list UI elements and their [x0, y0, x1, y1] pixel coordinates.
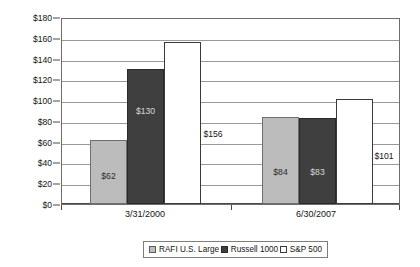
- legend-item-russell[interactable]: Russell 1000: [221, 245, 278, 254]
- legend-item-sp500[interactable]: S&P 500: [280, 245, 322, 254]
- y-tick-mark: [53, 142, 60, 143]
- y-tick-mark: [53, 59, 60, 60]
- y-tick-label: $120: [33, 75, 52, 85]
- legend-label-sp500: S&P 500: [290, 245, 322, 254]
- y-tick-label: $160: [33, 34, 52, 44]
- y-tick-label: $0: [42, 200, 52, 210]
- gridline: [62, 61, 399, 62]
- y-axis-labels: $180 $160 $140 $120 $100 $80 $60 $40 $20…: [0, 0, 61, 267]
- y-tick-label: $180: [33, 13, 52, 23]
- bar-value-label-russell-2007: $83: [310, 167, 324, 177]
- x-axis-ticks: [61, 205, 400, 215]
- plot-area: $62 $130 $156 $84 $83 $101: [61, 18, 400, 205]
- legend-item-rafi[interactable]: RAFI U.S. Large: [149, 245, 219, 254]
- legend-swatch-icon-russell: [221, 246, 228, 253]
- y-tick-mark: [53, 163, 60, 164]
- y-tick-mark: [53, 101, 60, 102]
- x-category-label-2007: 6/30/2007: [296, 209, 336, 219]
- y-tick-mark: [53, 121, 60, 122]
- y-tick-label: $100: [33, 96, 52, 106]
- bar-value-label-russell-2000: $130: [136, 106, 155, 116]
- bar-sp500-2000[interactable]: [164, 42, 201, 204]
- y-tick-label: $60: [38, 138, 52, 148]
- legend-swatch-icon-sp500: [280, 246, 287, 253]
- legend-label-rafi: RAFI U.S. Large: [159, 245, 219, 254]
- legend-label-russell: Russell 1000: [231, 245, 278, 254]
- bar-chart: Weighted Average Market Cap ($billions) …: [0, 0, 420, 267]
- bar-value-label-rafi-2007: $84: [273, 167, 287, 177]
- y-tick-mark: [53, 184, 60, 185]
- x-category-label-2000: 3/31/2000: [125, 209, 165, 219]
- bar-russell-2007[interactable]: [299, 118, 336, 204]
- y-tick-label: $20: [38, 179, 52, 189]
- y-tick-mark: [53, 80, 60, 81]
- gridline: [62, 81, 399, 82]
- bar-value-label-rafi-2000: $62: [101, 171, 115, 181]
- bar-value-label-sp500-2000: $156: [203, 129, 222, 139]
- y-tick-mark: [53, 18, 60, 19]
- y-tick-mark: [53, 205, 60, 206]
- gridline: [62, 40, 399, 41]
- x-tick-mark: [231, 205, 232, 210]
- x-tick-mark: [399, 205, 400, 210]
- bar-rafi-2007[interactable]: [262, 117, 299, 204]
- chart-legend: RAFI U.S. Large Russell 1000 S&P 500: [143, 241, 328, 258]
- y-tick-label: $40: [38, 158, 52, 168]
- bar-value-label-sp500-2007: $101: [374, 151, 393, 161]
- x-tick-mark: [61, 205, 62, 210]
- y-tick-mark: [53, 38, 60, 39]
- bar-sp500-2007[interactable]: [336, 99, 373, 204]
- bar-russell-2000[interactable]: [127, 69, 164, 204]
- legend-swatch-icon-rafi: [149, 246, 156, 253]
- y-tick-label: $80: [38, 117, 52, 127]
- y-tick-label: $140: [33, 55, 52, 65]
